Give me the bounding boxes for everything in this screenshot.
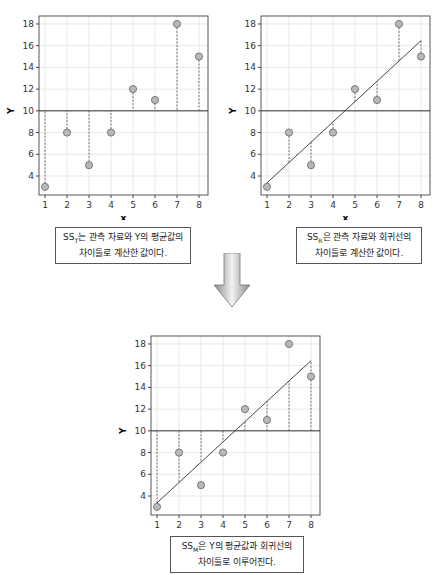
svg-text:7: 7 [174, 200, 180, 210]
svg-text:6: 6 [374, 200, 380, 210]
svg-text:8: 8 [196, 200, 202, 210]
svg-text:6: 6 [28, 149, 34, 159]
data-point [307, 373, 314, 380]
caption-sst: SST는 관측 자료와 Y의 평균값의 차이들로 계산한 값이다. [55, 227, 191, 264]
data-point [107, 129, 114, 136]
svg-text:18: 18 [245, 19, 257, 29]
svg-text:2: 2 [286, 200, 292, 210]
data-point [63, 129, 70, 136]
data-point [85, 162, 92, 169]
svg-text:3: 3 [198, 520, 204, 530]
data-point [173, 20, 180, 27]
data-point [285, 129, 292, 136]
svg-text:12: 12 [245, 84, 256, 94]
svg-text:4: 4 [108, 200, 114, 210]
svg-text:16: 16 [135, 361, 147, 371]
data-point [263, 183, 270, 190]
caption-ssr: SSR은 관측 자료와 회귀선의 차이들로 계산한 값이다. [296, 227, 422, 264]
data-point [129, 86, 136, 93]
data-point [197, 482, 204, 489]
data-point [417, 53, 424, 60]
plot-sst: 468101214161812345678xY [0, 0, 215, 220]
svg-text:1: 1 [42, 200, 48, 210]
svg-text:8: 8 [418, 200, 424, 210]
svg-text:8: 8 [250, 128, 256, 138]
data-point [151, 96, 158, 103]
svg-text:7: 7 [396, 200, 402, 210]
svg-text:1: 1 [264, 200, 270, 210]
data-point [307, 162, 314, 169]
svg-text:10: 10 [245, 106, 257, 116]
svg-text:14: 14 [23, 62, 35, 72]
svg-text:18: 18 [23, 19, 35, 29]
svg-text:3: 3 [308, 200, 314, 210]
svg-text:4: 4 [140, 491, 146, 501]
svg-text:8: 8 [308, 520, 314, 530]
svg-text:4: 4 [28, 171, 34, 181]
svg-text:x: x [343, 213, 349, 220]
svg-text:16: 16 [245, 41, 257, 51]
plot-ssm: 468101214161812345678xY [112, 320, 327, 540]
svg-text:1: 1 [154, 520, 160, 530]
caption-ssm: SSM은 Y의 평균값과 회귀선의 차이들로 이루어진다. [170, 536, 304, 573]
svg-text:12: 12 [135, 404, 146, 414]
svg-text:4: 4 [220, 520, 226, 530]
down-arrow-icon [212, 253, 252, 309]
data-point [175, 449, 182, 456]
svg-text:2: 2 [64, 200, 70, 210]
svg-text:4: 4 [330, 200, 336, 210]
data-point [153, 503, 160, 510]
data-point [329, 129, 336, 136]
svg-text:x: x [121, 213, 127, 220]
svg-text:Y: Y [6, 107, 16, 115]
svg-text:Y: Y [228, 107, 238, 115]
data-point [241, 406, 248, 413]
svg-text:6: 6 [264, 520, 270, 530]
data-point [351, 86, 358, 93]
data-point [285, 340, 292, 347]
svg-text:8: 8 [28, 128, 34, 138]
svg-text:6: 6 [250, 149, 256, 159]
svg-text:10: 10 [135, 426, 147, 436]
svg-text:6: 6 [140, 469, 146, 479]
data-point [395, 20, 402, 27]
svg-text:5: 5 [352, 200, 358, 210]
svg-text:18: 18 [135, 339, 147, 349]
data-point [41, 183, 48, 190]
svg-text:14: 14 [245, 62, 257, 72]
svg-text:16: 16 [23, 41, 35, 51]
svg-text:3: 3 [86, 200, 92, 210]
svg-text:12: 12 [23, 84, 34, 94]
data-point [263, 416, 270, 423]
svg-text:10: 10 [23, 106, 35, 116]
svg-text:7: 7 [286, 520, 292, 530]
svg-text:6: 6 [152, 200, 158, 210]
svg-text:5: 5 [242, 520, 248, 530]
svg-text:8: 8 [140, 448, 146, 458]
data-point [219, 449, 226, 456]
svg-text:Y: Y [118, 427, 128, 435]
svg-text:4: 4 [250, 171, 256, 181]
data-point [373, 96, 380, 103]
svg-text:5: 5 [130, 200, 136, 210]
plot-ssr: 468101214161812345678xY [222, 0, 437, 220]
svg-text:2: 2 [176, 520, 182, 530]
svg-text:14: 14 [135, 382, 147, 392]
data-point [195, 53, 202, 60]
